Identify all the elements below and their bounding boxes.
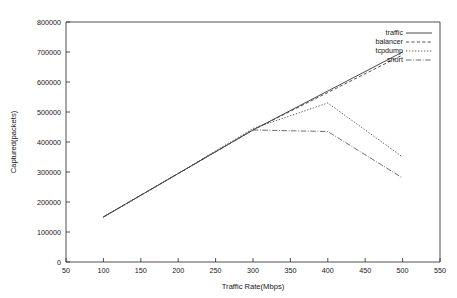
x-tick-label: 250 [210, 266, 222, 275]
x-tick-label: 450 [359, 266, 371, 275]
y-tick-label: 0 [57, 258, 61, 267]
x-tick-label: 500 [397, 266, 409, 275]
y-tick-label: 600000 [37, 78, 61, 87]
x-tick-label: 400 [322, 266, 334, 275]
x-tick-label: 550 [434, 266, 446, 275]
y-tick-label: 500000 [37, 108, 61, 117]
plot-border [66, 22, 440, 262]
y-tick-label: 300000 [37, 168, 61, 177]
legend-label-tcpdump: tcpdump [375, 46, 403, 55]
x-tick-label: 300 [247, 266, 259, 275]
series-group [103, 52, 402, 217]
x-tick-label: 350 [284, 266, 296, 275]
plot-frame [66, 22, 440, 262]
chart-legend: trafficbalancertcpdumpsnort [375, 28, 432, 64]
y-tick-label: 400000 [37, 138, 61, 147]
x-axis-ticks: 50100150200250300350400450500550 [62, 258, 446, 275]
series-line-balancer [103, 55, 402, 217]
axis-lines [66, 22, 440, 262]
legend-label-traffic: traffic [386, 28, 404, 37]
y-axis-ticks: 0100000200000300000400000500000600000700… [37, 18, 70, 267]
y-tick-label: 800000 [37, 18, 61, 27]
series-line-snort [103, 130, 402, 217]
y-tick-label: 200000 [37, 198, 61, 207]
x-tick-label: 150 [135, 266, 147, 275]
chart-container: 0100000200000300000400000500000600000700… [0, 0, 457, 298]
x-tick-label: 200 [172, 266, 184, 275]
series-line-traffic [103, 52, 402, 217]
legend-label-balancer: balancer [375, 37, 403, 46]
y-axis-title: Captured(packets) [9, 110, 18, 173]
y-tick-label: 100000 [37, 228, 61, 237]
series-line-tcpdump [103, 103, 402, 217]
x-axis-title: Traffic Rate(Mbps) [222, 282, 285, 291]
x-tick-label: 100 [97, 266, 109, 275]
line-chart: 0100000200000300000400000500000600000700… [0, 0, 457, 298]
legend-label-snort: snort [387, 55, 403, 64]
y-tick-label: 700000 [37, 48, 61, 57]
x-tick-label: 50 [62, 266, 70, 275]
